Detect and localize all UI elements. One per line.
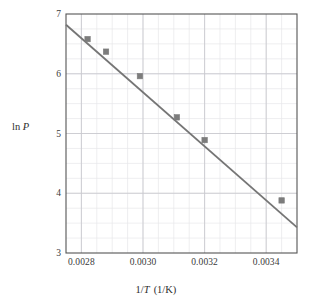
chart-figure: 0.00280.00300.00320.0034 34567 1/T(1/K) … <box>0 0 312 308</box>
x-axis-title: 1/T(1/K) <box>0 284 312 295</box>
x-tick-label: 0.0028 <box>68 257 95 267</box>
x-tick-label: 0.0034 <box>253 257 280 267</box>
y-tick-label: 5 <box>0 129 61 139</box>
x-tick-label: 0.0030 <box>130 257 157 267</box>
y-tick-label: 4 <box>0 188 61 198</box>
x-tick-label: 0.0032 <box>191 257 218 267</box>
x-axis-title-prefix: 1/ <box>136 284 144 295</box>
y-axis-title-symbol: P <box>23 121 29 132</box>
x-axis-title-symbol: T <box>144 284 150 295</box>
major-gridlines <box>66 14 297 253</box>
y-axis-title: ln P <box>12 121 29 132</box>
y-tick-label: 7 <box>0 9 61 19</box>
y-tick-label: 3 <box>0 248 61 258</box>
best-fit-line <box>66 25 297 228</box>
y-tick-label: 6 <box>0 69 61 79</box>
y-axis-title-prefix: ln <box>12 121 20 132</box>
x-axis-title-unit: (1/K) <box>154 284 177 295</box>
